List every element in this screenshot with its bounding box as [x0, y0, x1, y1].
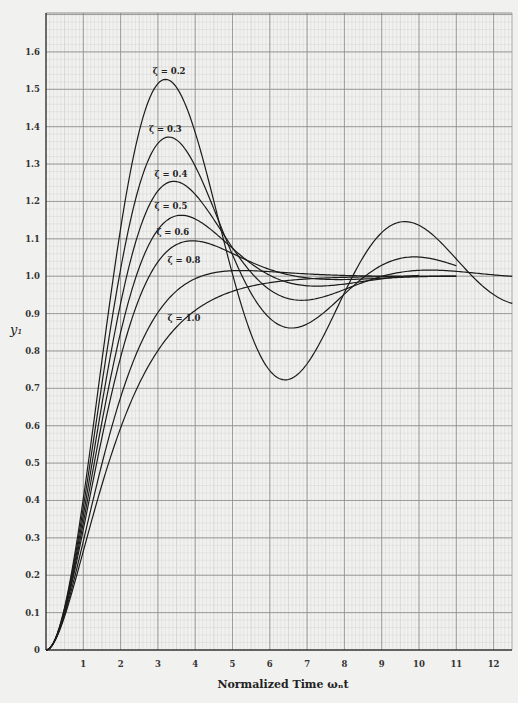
x-tick-label: 10 [413, 659, 425, 669]
y-tick-label: 0.3 [25, 533, 40, 543]
minor-grid [46, 13, 512, 650]
x-tick-label: 7 [304, 659, 310, 669]
x-tick-label: 9 [379, 659, 385, 669]
y-tick-label: 0.7 [25, 383, 40, 393]
major-grid [46, 13, 512, 650]
y-tick-label: 1.5 [25, 84, 40, 94]
curve-label: ζ = 0.6 [156, 227, 189, 237]
y-tick-label: 1.4 [25, 122, 40, 132]
y-tick-label: 1.1 [25, 234, 40, 244]
x-tick-label: 4 [192, 659, 198, 669]
x-tick-label: 3 [155, 659, 161, 669]
y-tick-label: 0 [34, 645, 40, 655]
response-curves [46, 79, 512, 650]
y-tick-label: 1.3 [25, 159, 40, 169]
curve-label: ζ = 0.4 [155, 169, 188, 179]
curve-labels: ζ = 0.2ζ = 0.3ζ = 0.4ζ = 0.5ζ = 0.6ζ = 0… [149, 66, 201, 323]
curve-label: ζ = 0.2 [153, 66, 186, 76]
y-tick-label: 0.4 [25, 495, 40, 505]
x-tick-label: 1 [80, 659, 86, 669]
curve-label: ζ = 0.8 [168, 255, 201, 265]
x-tick-label: 12 [488, 659, 500, 669]
x-tick-label: 8 [341, 659, 347, 669]
x-tick-label: 5 [230, 659, 236, 669]
curve-label: ζ = 0.5 [155, 201, 188, 211]
x-tick-labels: 123456789101112 [80, 659, 499, 669]
curve-label: ζ = 1.0 [168, 313, 201, 323]
x-tick-label: 11 [450, 659, 462, 669]
y-tick-label: 0.6 [25, 421, 40, 431]
curve-zeta-0-4 [46, 181, 512, 650]
x-tick-label: 6 [267, 659, 273, 669]
y-tick-label: 0.5 [25, 458, 40, 468]
y-tick-label: 0.2 [25, 570, 40, 580]
x-tick-label: 2 [118, 659, 124, 669]
y-tick-label: 0.9 [25, 309, 40, 319]
x-axis-title: Normalized Time ωₙt [217, 678, 349, 691]
y-tick-label: 0.1 [25, 608, 40, 618]
y-axis-label: y₁ [9, 322, 23, 337]
curve-zeta-0-2 [46, 79, 512, 650]
curve-label: ζ = 0.3 [149, 124, 182, 134]
y-tick-label: 0.8 [25, 346, 40, 356]
step-response-chart: 00.10.20.30.40.50.60.70.80.91.01.11.21.3… [0, 0, 518, 703]
y-tick-label: 1.0 [25, 271, 40, 281]
y-tick-labels: 00.10.20.30.40.50.60.70.80.91.01.11.21.3… [25, 47, 40, 655]
y-tick-label: 1.6 [25, 47, 40, 57]
axes [46, 13, 512, 650]
y-tick-label: 1.2 [25, 196, 40, 206]
